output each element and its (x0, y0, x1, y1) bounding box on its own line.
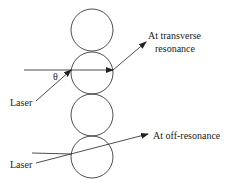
transverse-label-line1: At transverse (148, 30, 202, 41)
resonance-diagram: θ Laser At transverse resonance At off-r… (0, 0, 235, 189)
sphere-4 (71, 136, 113, 178)
laser-label-bottom: Laser (10, 159, 33, 170)
reference-line-bottom (32, 153, 71, 154)
transverse-resonance-rays (24, 42, 146, 101)
sphere-3 (71, 94, 113, 136)
off-resonance-rays (32, 134, 148, 163)
off-resonance-label: At off-resonance (153, 130, 221, 141)
transverse-label-line2: resonance (155, 43, 196, 54)
angle-theta-label: θ (53, 71, 58, 82)
laser-label-top: Laser (10, 97, 33, 108)
sphere-1 (71, 9, 113, 51)
off-resonance-ray (36, 134, 148, 163)
exit-ray (113, 42, 146, 70)
sphere-2 (71, 52, 113, 94)
